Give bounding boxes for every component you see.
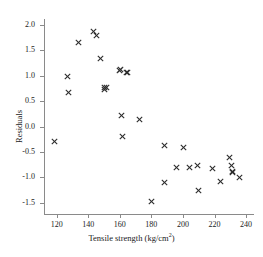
x-tick	[246, 214, 247, 218]
data-point	[136, 116, 143, 123]
data-point	[65, 89, 72, 96]
y-tick	[40, 152, 44, 153]
y-tick-label: -0.5	[11, 147, 35, 156]
x-tick	[183, 214, 184, 218]
y-tick	[40, 203, 44, 204]
x-tick-label: 140	[73, 220, 103, 229]
x-tick-label: 160	[105, 220, 135, 229]
x-tick-label: 240	[231, 220, 261, 229]
scatter-plot: 120140160180200220240 -1.5-1.0-0.50.00.5…	[0, 0, 263, 257]
data-point	[173, 164, 180, 171]
x-tick-label: 120	[42, 220, 72, 229]
data-point	[75, 39, 82, 46]
y-tick-label: -1.5	[11, 198, 35, 207]
x-tick	[88, 214, 89, 218]
data-point	[103, 84, 110, 91]
x-tick	[215, 214, 216, 218]
y-tick	[40, 127, 44, 128]
data-point	[124, 69, 131, 76]
y-tick	[40, 25, 44, 26]
y-tick	[40, 101, 44, 102]
x-tick-label: 180	[136, 220, 166, 229]
x-tick	[151, 214, 152, 218]
y-axis-line	[44, 19, 45, 214]
y-axis-label: Residuals	[14, 109, 24, 142]
y-tick	[40, 177, 44, 178]
data-point	[64, 73, 71, 80]
data-point	[93, 32, 100, 39]
x-axis-label: Tensile strength (kg/cm2)	[0, 232, 263, 243]
data-point	[229, 169, 236, 176]
y-tick-label: 1.0	[11, 71, 35, 80]
data-point	[186, 164, 193, 171]
x-axis-line	[44, 214, 254, 215]
y-tick	[40, 76, 44, 77]
x-tick	[57, 214, 58, 218]
x-tick-label: 220	[200, 220, 230, 229]
data-point	[161, 142, 168, 149]
data-point	[118, 112, 125, 119]
data-point	[194, 162, 201, 169]
y-tick-label: 2.0	[11, 20, 35, 29]
y-tick-label: 1.5	[11, 45, 35, 54]
data-point	[195, 187, 202, 194]
superscript-two: 2	[169, 232, 172, 238]
data-point	[51, 138, 58, 145]
data-point	[217, 178, 224, 185]
data-point	[148, 198, 155, 205]
y-tick-label: -1.0	[11, 172, 35, 181]
data-point	[226, 154, 233, 161]
x-tick	[120, 214, 121, 218]
y-tick	[40, 50, 44, 51]
data-point	[161, 179, 168, 186]
y-tick-label: 0.5	[11, 96, 35, 105]
data-point	[97, 55, 104, 62]
x-tick-label: 200	[168, 220, 198, 229]
data-point	[236, 174, 243, 181]
data-point	[119, 133, 126, 140]
data-point	[180, 144, 187, 151]
data-point	[209, 165, 216, 172]
